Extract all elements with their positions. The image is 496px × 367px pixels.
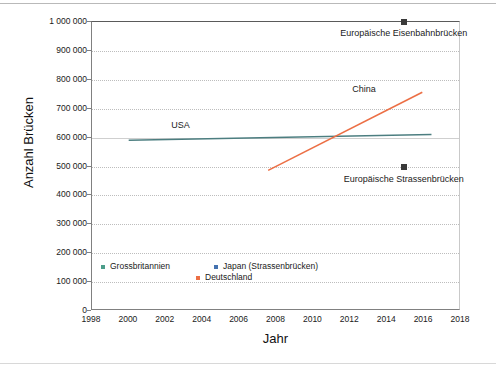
y-tick-label: 200 000 [7, 247, 87, 257]
y-tick-label: 900 000 [7, 45, 87, 55]
series-line [129, 135, 432, 141]
annotation-label: Europäische Strassenbrücken [344, 174, 464, 185]
y-axis-tick-labels: 0100 000200 000300 000400 000500 000600 … [4, 21, 87, 310]
annotation-label: China [352, 84, 376, 95]
annotation-label: Europäische Eisenbahnbrücken [340, 28, 467, 39]
annotation-label: USA [171, 120, 190, 131]
chart-legend: GrossbritannienJapan (Strassenbrücken)De… [101, 261, 381, 289]
y-tick-label: 800 000 [7, 74, 87, 84]
plot-area: USAChinaEuropäische EisenbahnbrückenEuro… [91, 21, 460, 310]
legend-item[interactable]: Grossbritannien [101, 261, 170, 272]
legend-item[interactable]: Japan (Strassenbrücken) [214, 261, 318, 272]
legend-label: Japan (Strassenbrücken) [223, 261, 318, 272]
bottom-divider-rule [0, 363, 496, 364]
y-tick-mark [87, 310, 91, 311]
legend-swatch-icon [196, 276, 200, 280]
y-tick-label: 300 000 [7, 218, 87, 228]
y-tick-label: 700 000 [7, 103, 87, 113]
legend-label: Grossbritannien [110, 261, 170, 272]
y-tick-label: 600 000 [7, 132, 87, 142]
x-axis-tick-labels: 1998200020022004200620082010201220142016… [0, 313, 496, 329]
y-tick-label: 400 000 [7, 189, 87, 199]
chart-screenshot: Anzahl Brücken 0100 000200 000300 000400… [0, 0, 496, 367]
legend-label: Deutschland [205, 272, 252, 283]
square-marker [401, 19, 407, 25]
y-tick-label: 100 000 [7, 276, 87, 286]
legend-swatch-icon [214, 265, 218, 269]
x-axis-title: Jahr [91, 331, 460, 346]
y-tick-label: 1 000 000 [7, 16, 87, 26]
top-divider-rule [0, 3, 496, 4]
legend-swatch-icon [101, 265, 105, 269]
square-marker [401, 164, 407, 170]
x-tick-label: 2018 [437, 313, 483, 325]
legend-item[interactable]: Deutschland [196, 272, 252, 283]
y-tick-label: 500 000 [7, 161, 87, 171]
series-line [268, 92, 422, 170]
